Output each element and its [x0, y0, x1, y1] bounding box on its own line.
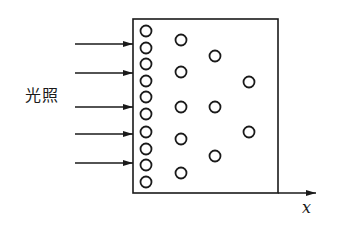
particle-circle	[244, 127, 255, 138]
particle-circle	[176, 102, 187, 113]
light-illumination-label: 光照	[25, 82, 59, 106]
particle-circle	[210, 102, 221, 113]
sample-box	[133, 19, 278, 193]
particle-circle	[176, 134, 187, 145]
particle-circle	[141, 26, 152, 37]
particle-circle	[244, 77, 255, 88]
particle-circle	[176, 67, 187, 78]
particle-circle	[210, 151, 221, 162]
particle-circle	[141, 109, 152, 120]
particle-circle	[210, 51, 221, 62]
particle-circle	[141, 177, 152, 188]
particle-circle	[141, 92, 152, 103]
particle-circle	[176, 168, 187, 179]
diffusion-diagram	[0, 0, 339, 229]
particle-circle	[141, 76, 152, 87]
particle-circle	[141, 127, 152, 138]
x-axis-label: x	[302, 198, 311, 217]
particle-circle	[141, 43, 152, 54]
particle-circle	[141, 144, 152, 155]
particle-circle	[141, 59, 152, 70]
particle-circle	[176, 35, 187, 46]
particle-circle	[141, 160, 152, 171]
